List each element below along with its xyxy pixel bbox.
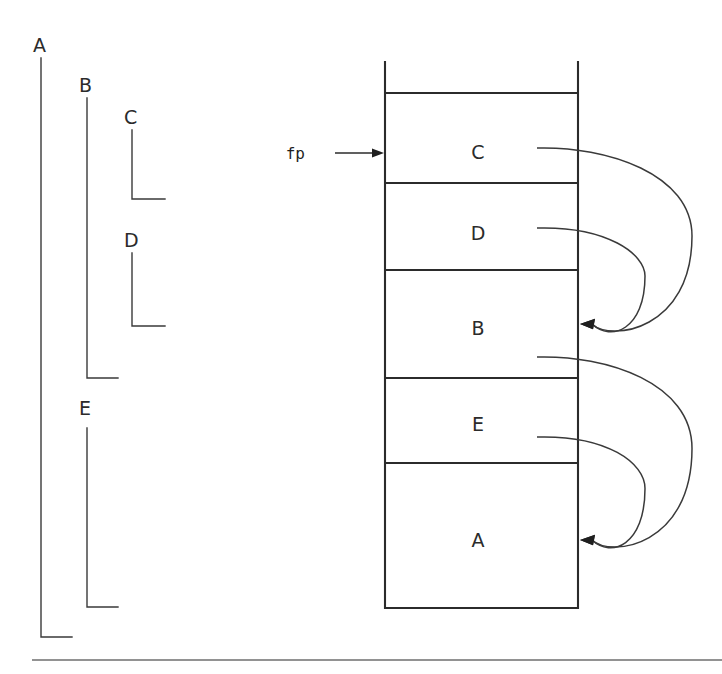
lifetime-bracket-path-e (87, 428, 118, 607)
figure-canvas: ABCDE CDBEA fp (0, 0, 722, 674)
stack-frame-label-d: D (471, 222, 486, 244)
lifetime-label-a: A (33, 34, 46, 56)
link-e-to-a-path (537, 437, 645, 548)
stack-frame-label-e: E (472, 413, 484, 435)
link-b-to-a (537, 357, 692, 547)
lifetime-label-c: C (124, 106, 137, 128)
lifetime-bracket-d: D (124, 229, 165, 326)
stack-box-group: CDBEA (385, 62, 578, 608)
link-e-to-a-arrowhead-icon (580, 535, 595, 545)
link-b-to-a-path (537, 357, 692, 547)
stack-frame-label-a: A (472, 529, 485, 551)
link-e-to-a (537, 437, 645, 548)
lifetime-bracket-path-b (87, 98, 118, 378)
lifetime-label-e: E (79, 397, 91, 419)
lifetime-bracket-path-c (132, 130, 165, 199)
link-c-to-b (537, 148, 692, 331)
link-d-to-b-arrowhead-icon (580, 319, 595, 329)
frame-pointer-group: fp (286, 144, 384, 163)
lifetime-label-b: B (79, 74, 92, 96)
link-d-to-b (537, 228, 645, 332)
lifetime-bracket-b: B (79, 74, 118, 378)
static-link-group (537, 148, 692, 548)
stack-frame-diagram: ABCDE CDBEA fp (0, 0, 722, 674)
stack-frame-label-c: C (471, 141, 484, 163)
frame-pointer-arrowhead-icon (372, 148, 384, 157)
lifetime-bracket-e: E (79, 397, 118, 607)
lifetime-bracket-path-d (132, 253, 165, 326)
frame-pointer-label: fp (286, 144, 305, 163)
lifetime-bracket-a: A (33, 34, 72, 637)
link-c-to-b-path (537, 148, 692, 331)
link-d-to-b-path (537, 228, 645, 332)
lifetime-bracket-group: ABCDE (33, 34, 165, 637)
lifetime-bracket-path-a (41, 58, 72, 637)
lifetime-bracket-c: C (124, 106, 165, 199)
lifetime-label-d: D (124, 229, 139, 251)
stack-frame-label-b: B (471, 317, 484, 339)
